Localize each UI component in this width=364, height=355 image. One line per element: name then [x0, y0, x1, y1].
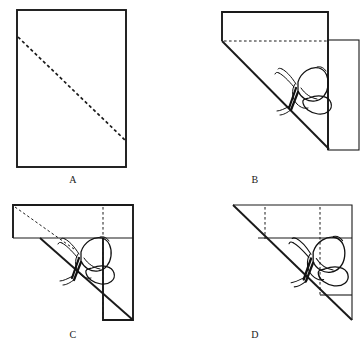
- panel-b-butterfly-icon: [275, 67, 331, 115]
- panel-d: [233, 205, 352, 320]
- panel-label-a: A: [63, 174, 83, 185]
- panel-b-right-flap: [328, 40, 359, 150]
- panel-a-sheet-rectangle: [17, 10, 126, 167]
- panel-b: [222, 12, 359, 150]
- panel-c-diagonal-edge: [40, 238, 133, 320]
- panel-label-d: D: [245, 329, 265, 340]
- panel-c: [13, 205, 133, 320]
- figure-canvas: [0, 0, 364, 355]
- panel-a-fold-line-dashed: [18, 37, 125, 140]
- panel-b-outline: [222, 12, 328, 150]
- panel-d-butterfly-icon: [289, 236, 348, 287]
- paper-folding-figure: A B C D: [0, 0, 364, 355]
- panel-label-b: B: [245, 174, 265, 185]
- panel-d-diagonal-edge: [233, 205, 352, 320]
- panel-b-diagonal-edge: [222, 41, 329, 149]
- panel-c-top-band: [13, 205, 133, 238]
- panel-label-c: C: [63, 329, 83, 340]
- panel-a: [17, 10, 126, 167]
